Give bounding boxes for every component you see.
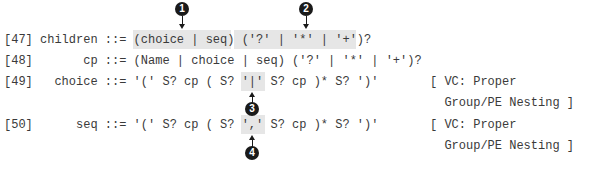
constraint-50-line2: Group/PE Nesting ] <box>430 137 574 155</box>
constraint-49-line1: [ VC: Proper <box>430 73 516 91</box>
arrow-down-icon <box>303 24 309 29</box>
production-50: [50] seq ::= '(' S? cp ( S? ',' S? cp )*… <box>4 116 378 134</box>
production-47: [47] children ::= (choice | seq) ('?' | … <box>4 31 371 49</box>
production-48: [48] cp ::= (Name | choice | seq) ('?' |… <box>4 52 422 70</box>
callout-marker-2: 2 <box>299 2 313 16</box>
callout-marker-4: 4 <box>245 146 259 160</box>
arrow-down-icon <box>179 24 185 29</box>
callout-marker-3: 3 <box>245 102 259 116</box>
callout-marker-1: 1 <box>175 2 189 16</box>
production-49: [49] choice ::= '(' S? cp ( S? '|' S? cp… <box>4 73 378 91</box>
constraint-49-line2: Group/PE Nesting ] <box>430 94 574 112</box>
constraint-50-line1: [ VC: Proper <box>430 116 516 134</box>
